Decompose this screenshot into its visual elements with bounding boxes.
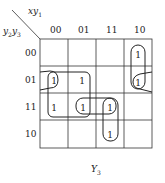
output-label: Y3 (91, 164, 101, 178)
row-var-label: y2y3 (3, 26, 21, 40)
row-header-01: 01 (25, 75, 36, 85)
col-header-10: 10 (134, 25, 145, 35)
row-header-11: 11 (25, 102, 36, 112)
cell-r2-c1: 1 (77, 103, 89, 113)
cell-r2-c2: 1 (104, 103, 116, 113)
row-header-10: 10 (25, 129, 36, 139)
cell-r1-c0: 1 (48, 76, 60, 86)
col-header-11: 11 (106, 25, 117, 35)
cell-r1-c3: 1 (132, 78, 144, 88)
col-header-00: 00 (50, 25, 61, 35)
cell-r0-c3: 1 (132, 50, 144, 60)
cell-r2-c0: 1 (48, 103, 60, 113)
row-header-00: 00 (25, 48, 36, 58)
col-header-01: 01 (78, 25, 89, 35)
cell-r1-c1: 1 (76, 76, 88, 86)
cell-r3-c2: 1 (104, 130, 116, 140)
col-var-label: xy1 (28, 6, 42, 20)
